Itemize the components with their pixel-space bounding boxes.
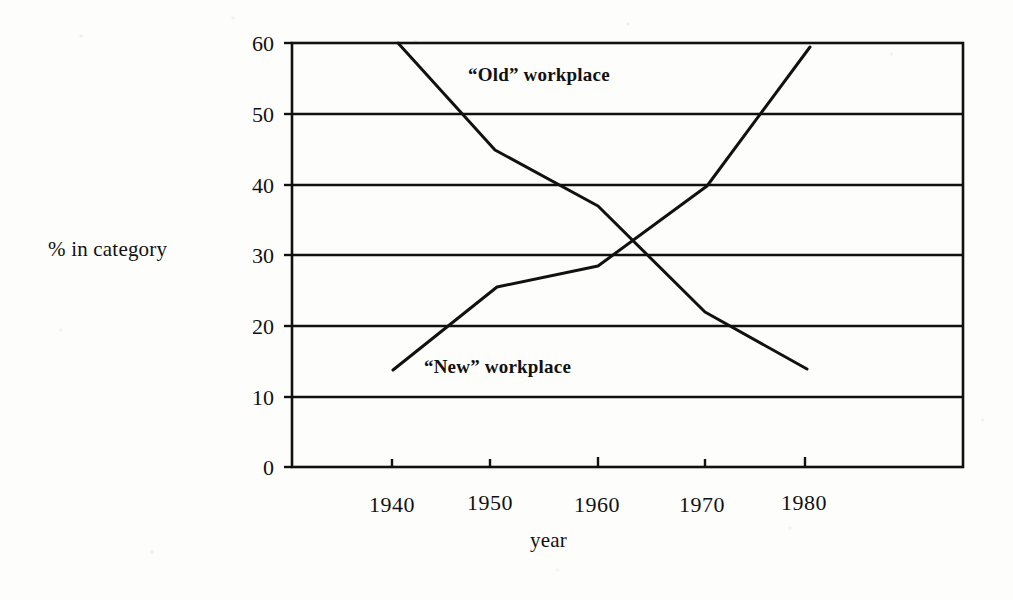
y-axis-title: % in category xyxy=(48,237,167,262)
x-tick-label-1980: 1980 xyxy=(764,490,844,516)
series-label-old-workplace: “Old” workplace xyxy=(468,64,610,86)
y-tick-label-10: 10 xyxy=(228,385,274,411)
y-tick-label-20: 20 xyxy=(228,314,274,340)
x-tick-label-1970: 1970 xyxy=(662,492,742,518)
y-tick-label-50: 50 xyxy=(228,102,274,128)
x-tick-label-1950: 1950 xyxy=(450,490,530,516)
chart-page: 60 50 40 30 20 10 0 1940 1950 1960 1970 … xyxy=(0,0,1013,600)
series-label-new-workplace: “New” workplace xyxy=(424,356,571,378)
x-axis-title: year xyxy=(530,528,567,553)
x-axis-ticks xyxy=(392,457,805,467)
gridlines-horizontal xyxy=(292,114,963,397)
series-line-old-workplace xyxy=(398,43,807,369)
y-tick-label-30: 30 xyxy=(228,243,274,269)
y-tick-label-40: 40 xyxy=(228,173,274,199)
x-tick-label-1960: 1960 xyxy=(557,492,637,518)
y-tick-label-0: 0 xyxy=(228,455,274,481)
y-tick-label-60: 60 xyxy=(228,31,274,57)
x-tick-label-1940: 1940 xyxy=(352,492,432,518)
